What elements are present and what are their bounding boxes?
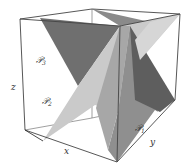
cube-diagram: 𝒫3 𝒫2 𝒫1 z x y (0, 0, 190, 167)
plane-label-p2: 𝒫2 (42, 96, 52, 107)
axis-label-y: y (149, 137, 156, 147)
axis-label-x: x (64, 146, 69, 156)
plane-label-p3: 𝒫3 (36, 55, 46, 66)
axis-label-z: z (10, 82, 16, 92)
